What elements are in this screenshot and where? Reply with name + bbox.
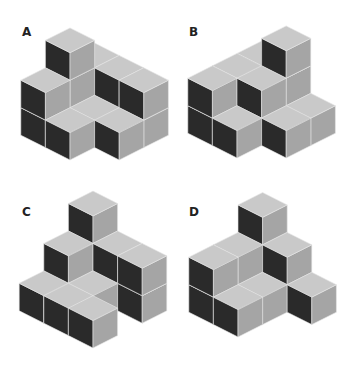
figure-c-label: C	[22, 205, 31, 219]
figure-d-cubes	[189, 193, 337, 338]
figure-a-cubes	[21, 28, 169, 160]
cube-figures-canvas: A B C D	[0, 0, 355, 366]
figure-b-cubes	[188, 26, 336, 158]
figure-c: C	[19, 191, 167, 348]
figure-c-cubes	[19, 191, 167, 348]
figure-b-label: B	[189, 25, 198, 39]
figure-d-label: D	[189, 205, 199, 219]
figure-a: A	[21, 25, 169, 160]
figure-b: B	[188, 25, 336, 158]
figure-d: D	[189, 193, 337, 338]
figure-a-label: A	[22, 25, 32, 39]
